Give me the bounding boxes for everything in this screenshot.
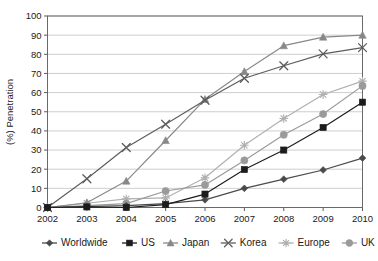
- y-tick-label: 80: [31, 49, 42, 60]
- y-tick-label: 30: [31, 144, 42, 155]
- data-point-asterisk: [319, 91, 327, 99]
- data-point-square: [359, 99, 365, 105]
- legend-item-label: US: [141, 237, 155, 248]
- data-point-square: [281, 147, 287, 153]
- y-axis-title: (%) Penetration: [4, 79, 15, 145]
- data-point-square: [84, 204, 90, 210]
- legend-item-label: Japan: [182, 237, 209, 248]
- data-point-square: [44, 204, 50, 210]
- x-tick-label: 2007: [234, 213, 255, 224]
- x-tick-label: 2003: [76, 213, 97, 224]
- data-point-circle: [359, 82, 366, 89]
- y-tick-label: 40: [31, 125, 42, 136]
- data-point-circle: [201, 181, 208, 188]
- data-point-circle: [280, 131, 287, 138]
- legend-item-label: UK: [361, 237, 375, 248]
- y-tick-label: 100: [26, 10, 42, 21]
- x-tick-label: 2009: [313, 213, 334, 224]
- x-tick-label: 2005: [155, 213, 176, 224]
- y-tick-label: 0: [36, 202, 41, 213]
- data-point-square: [123, 204, 129, 210]
- data-point-asterisk: [280, 115, 288, 123]
- legend-item-label: Korea: [240, 237, 267, 248]
- y-tick-label: 20: [31, 164, 42, 175]
- data-point-square: [163, 202, 169, 208]
- y-tick-label: 90: [31, 30, 42, 41]
- x-tick-label: 2004: [116, 213, 137, 224]
- chart-legend: WorldwideUSJapanKoreaEuropeUK: [42, 237, 375, 248]
- x-tick-label: 2008: [273, 213, 294, 224]
- data-point-square: [127, 240, 133, 246]
- x-tick-label: 2010: [352, 213, 373, 224]
- y-tick-label: 50: [31, 106, 42, 117]
- y-tick-label: 70: [31, 68, 42, 79]
- data-point-square: [241, 166, 247, 172]
- y-tick-label: 10: [31, 183, 42, 194]
- data-point-circle: [320, 110, 327, 117]
- data-point-circle: [241, 157, 248, 164]
- data-point-asterisk: [282, 239, 289, 246]
- x-tick-label: 2002: [37, 213, 58, 224]
- penetration-line-chart: 0102030405060708090100 20022003200420052…: [0, 0, 378, 261]
- x-tick-label: 2006: [194, 213, 215, 224]
- data-point-circle: [162, 187, 169, 194]
- legend-item-label: Europe: [298, 237, 331, 248]
- chart-canvas: 0102030405060708090100 20022003200420052…: [0, 0, 378, 261]
- data-point-circle: [346, 240, 353, 247]
- y-tick-label: 60: [31, 87, 42, 98]
- legend-item-label: Worldwide: [61, 237, 108, 248]
- y-axis-label: (%) Penetration: [4, 79, 15, 145]
- data-point-asterisk: [240, 141, 248, 149]
- data-point-square: [202, 191, 208, 197]
- data-point-asterisk: [201, 174, 209, 182]
- data-point-square: [320, 124, 326, 130]
